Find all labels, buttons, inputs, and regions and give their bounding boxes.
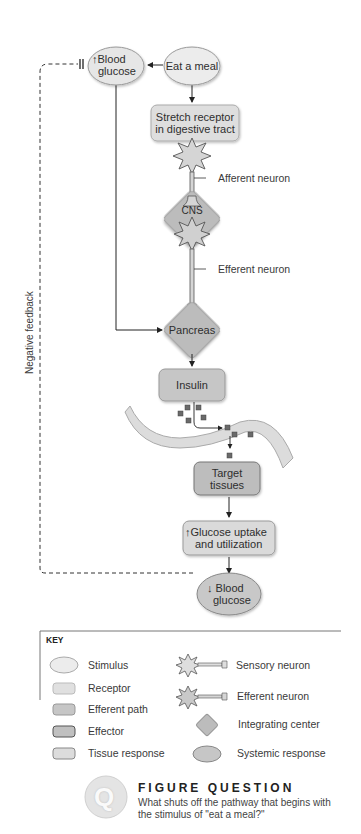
key-label-integrating-center: Integrating center (238, 718, 320, 730)
cns-label: CNS (172, 205, 212, 217)
eat-a-meal-label: Eat a meal (162, 60, 222, 72)
figure-question-text: What shuts off the pathway that begins w… (138, 797, 338, 821)
pancreas-label: Pancreas (164, 324, 220, 336)
key-systemic-response-icon (193, 746, 221, 762)
key-integrating-center-icon (196, 714, 219, 737)
key-label-effector: Effector (88, 725, 124, 737)
negative-feedback-label: Negative feedback (24, 291, 35, 374)
key-label-stimulus: Stimulus (88, 659, 128, 671)
blood-glucose-up-label: ↑Blood glucose (92, 53, 144, 77)
key-label-sensory-neuron: Sensory neuron (236, 659, 310, 671)
afferent-neuron-label: Afferent neuron (218, 172, 290, 184)
stretch-receptor-label: Stretch receptor in digestive tract (151, 111, 239, 135)
key-efferent-path-icon (53, 704, 75, 715)
key-title: KEY (46, 635, 63, 645)
key-label-efferent-neuron: Efferent neuron (237, 690, 309, 702)
key-label-receptor: Receptor (88, 682, 131, 694)
sensory-neuron-icon (173, 138, 211, 196)
insulin-label: Insulin (159, 379, 225, 391)
key-stimulus-icon (50, 657, 78, 673)
key-efferent-neuron-icon (176, 686, 227, 709)
key-label-efferent-path: Efferent path (88, 703, 148, 715)
target-tissues-label: Target tissues (194, 467, 260, 491)
figure-question-title: FIGURE QUESTION (138, 781, 294, 795)
key-label-tissue-response: Tissue response (88, 747, 165, 759)
blood-glucose-down-label: ↓ Blood glucose (207, 582, 257, 606)
key-tissue-response-icon (53, 748, 75, 759)
blood-vessel (125, 406, 293, 468)
efferent-neuron-label: Efferent neuron (218, 263, 290, 275)
key-receptor-icon (53, 683, 75, 694)
key-effector-icon (53, 726, 75, 737)
down-arrow-icon: ↓ (207, 582, 213, 594)
glucose-uptake-label: ↑Glucose uptake and utilization (185, 526, 275, 550)
key-sensory-neuron-icon (176, 654, 227, 677)
key-label-systemic-response: Systemic response (237, 747, 326, 759)
q-glyph: Q (94, 782, 114, 813)
